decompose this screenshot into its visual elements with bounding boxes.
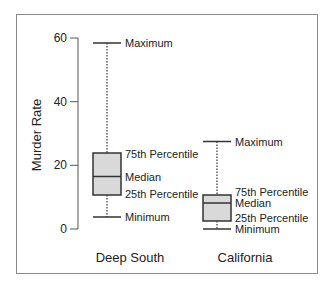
y-tick-label-40: 40 [54, 95, 68, 109]
annotations-deep-south: Maximum 75th Percentile Median 25th Perc… [125, 37, 198, 223]
label-maximum: Maximum [125, 37, 173, 49]
label-maximum: Maximum [235, 136, 283, 148]
iqr-box [93, 153, 121, 195]
label-minimum: Minimum [125, 211, 170, 223]
label-minimum: Minimum [235, 223, 280, 235]
y-tick-label-0: 0 [60, 222, 67, 236]
label-median: Median [235, 197, 271, 209]
label-75th-percentile: 75th Percentile [125, 148, 198, 160]
box-deep-south [93, 43, 121, 217]
y-axis-ticks [70, 38, 78, 229]
label-25th-percentile: 25th Percentile [125, 188, 198, 200]
box-plot: Murder Rate 60 40 20 0 Maximum 75th Perc… [0, 0, 334, 286]
y-axis-label: Murder Rate [29, 99, 44, 171]
box-california [203, 142, 231, 230]
annotations-california: Maximum 75th Percentile Median 25th Perc… [235, 136, 308, 236]
y-tick-label-20: 20 [54, 158, 68, 172]
y-tick-label-60: 60 [54, 31, 68, 45]
iqr-box [203, 195, 231, 221]
category-label-deep-south: Deep South [96, 250, 165, 265]
category-label-california: California [218, 250, 274, 265]
label-median: Median [125, 171, 161, 183]
